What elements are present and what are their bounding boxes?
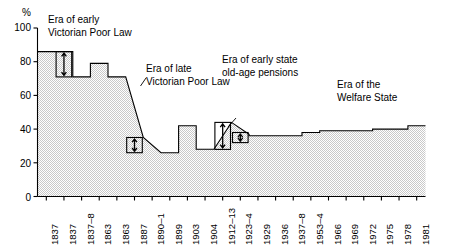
y-tick-label-0: 0 <box>5 193 31 203</box>
annotation-old-age-pensions-line2: old-age pensions <box>222 67 298 80</box>
annotation-early-poor-law-line1: Era of early <box>48 14 132 27</box>
x-tick-marks <box>46 197 416 201</box>
x-tick-label: 1978 <box>403 224 413 245</box>
chart-figure: % 100 80 60 40 20 0 Era of <box>0 0 458 249</box>
x-tick-label: 1972 <box>368 224 378 245</box>
annotation-late-poor-law-line2: Victorian Poor Law <box>146 76 230 89</box>
annotation-old-age-pensions-line1: Era of early state <box>222 54 298 67</box>
y-tick-label-100: 100 <box>5 23 31 33</box>
annotation-late-poor-law-line1: Era of late <box>146 63 230 76</box>
x-tick-label: 1912–13 <box>227 208 237 245</box>
annotation-early-poor-law: Era of early Victorian Poor Law <box>48 14 132 39</box>
x-tick-label: 1981 <box>421 224 431 245</box>
x-tick-label: 1887 <box>139 224 149 245</box>
x-tick-label: 1899 <box>174 224 184 245</box>
y-tick-label-20: 20 <box>5 159 31 169</box>
x-tick-label: 1904 <box>209 224 219 245</box>
y-tick-label-40: 40 <box>5 125 31 135</box>
x-tick-label: 1975 <box>385 224 395 245</box>
x-tick-label: 1966 <box>333 224 343 245</box>
y-axis-unit-label: % <box>22 8 31 18</box>
x-tick-label: 1837 <box>50 224 60 245</box>
x-tick-label: 1863 <box>121 224 131 245</box>
x-tick-label: 1923–4 <box>244 213 254 245</box>
x-tick-label: 1937–8 <box>297 213 307 245</box>
x-tick-label: 1929 <box>262 224 272 245</box>
x-tick-label: 1969 <box>350 224 360 245</box>
annotation-late-poor-law: Era of late Victorian Poor Law <box>146 63 230 88</box>
annotation-welfare-state-line1: Era of the <box>337 79 397 92</box>
y-tick-label-60: 60 <box>5 91 31 101</box>
x-tick-label: 1863 <box>103 224 113 245</box>
x-tick-label: 1936 <box>280 224 290 245</box>
annotation-welfare-state: Era of the Welfare State <box>337 79 397 104</box>
x-tick-label: 1890–1 <box>156 213 166 245</box>
y-tick-label-80: 80 <box>5 57 31 67</box>
x-tick-label: 1903 <box>191 224 201 245</box>
x-tick-label: 1837–8 <box>86 213 96 245</box>
annotation-early-poor-law-line2: Victorian Poor Law <box>48 27 132 40</box>
annotation-old-age-pensions: Era of early state old-age pensions <box>222 54 298 79</box>
x-tick-label: 1837 <box>68 224 78 245</box>
x-tick-label: 1953–4 <box>315 213 325 245</box>
annotation-welfare-state-line2: Welfare State <box>337 92 397 105</box>
y-tick-marks <box>34 28 38 197</box>
